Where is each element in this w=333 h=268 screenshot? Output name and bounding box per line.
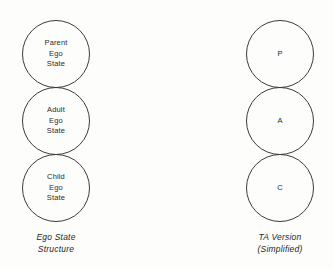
- circle-label-parent-abbrev: P: [277, 49, 282, 59]
- circle-adult-abbrev[interactable]: A: [246, 87, 314, 155]
- column-ego-state-structure: Parent Ego State Adult Ego State Child E…: [22, 20, 90, 222]
- circle-label-child: Child Ego State: [47, 172, 65, 204]
- column-ta-version-simplified: P A C: [246, 20, 314, 222]
- circle-label-adult: Adult Ego State: [47, 105, 65, 137]
- caption-ta-version-simplified: TA Version (Simplified): [210, 231, 333, 255]
- circle-child-abbrev[interactable]: C: [246, 154, 314, 222]
- circle-adult-ego-state[interactable]: Adult Ego State: [22, 87, 90, 155]
- circle-parent-ego-state[interactable]: Parent Ego State: [22, 20, 90, 88]
- circle-label-adult-abbrev: A: [277, 116, 282, 126]
- circle-parent-abbrev[interactable]: P: [246, 20, 314, 88]
- circle-label-child-abbrev: C: [277, 183, 283, 193]
- circle-child-ego-state[interactable]: Child Ego State: [22, 154, 90, 222]
- circle-label-parent: Parent Ego State: [45, 38, 68, 70]
- caption-ego-state-structure: Ego State Structure: [0, 231, 126, 255]
- ego-state-diagram: Parent Ego State Adult Ego State Child E…: [0, 0, 333, 268]
